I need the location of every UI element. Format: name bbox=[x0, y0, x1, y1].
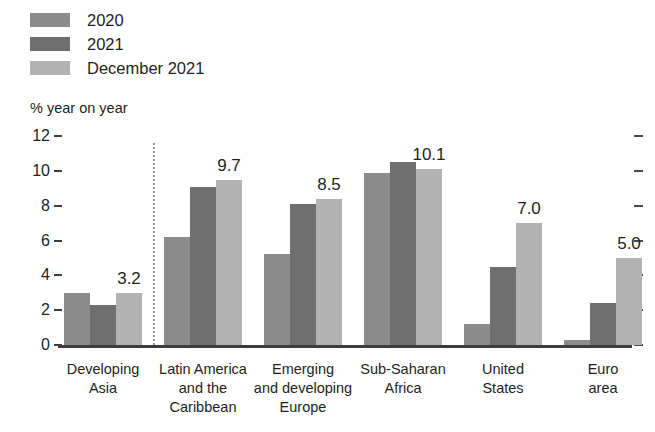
bar bbox=[264, 254, 290, 345]
bar bbox=[390, 162, 416, 345]
bar bbox=[216, 180, 242, 345]
bar-value-label: 7.0 bbox=[517, 200, 541, 217]
bar bbox=[316, 199, 342, 345]
x-axis-category-label-line: States bbox=[482, 379, 524, 398]
x-axis-category-label-line: Latin America bbox=[159, 360, 247, 379]
bar bbox=[416, 169, 442, 345]
bar bbox=[290, 204, 316, 345]
bar bbox=[516, 223, 542, 345]
bar-value-label: 9.7 bbox=[217, 157, 241, 174]
bar bbox=[116, 293, 142, 345]
bar-value-label: 10.1 bbox=[412, 146, 445, 163]
bar-chart-plot: 024681012 3.29.78.510.17.05.0 Developing… bbox=[0, 0, 655, 432]
x-axis-category-label-line: Asia bbox=[67, 379, 140, 398]
x-axis-category-label: UnitedStates bbox=[482, 360, 524, 398]
x-axis-category-label: Latin Americaand theCaribbean bbox=[159, 360, 247, 417]
x-axis-category-label-line: Sub-Saharan bbox=[360, 360, 445, 379]
x-axis-category-label-line: United bbox=[482, 360, 524, 379]
bars-layer bbox=[0, 0, 655, 345]
x-axis-category-label-line: Emerging bbox=[254, 360, 352, 379]
x-axis-baseline bbox=[58, 345, 632, 348]
bar bbox=[64, 293, 90, 345]
bar bbox=[590, 303, 616, 345]
bar bbox=[616, 258, 642, 345]
x-axis-category-label: DevelopingAsia bbox=[67, 360, 140, 398]
x-axis-category-label-line: and developing bbox=[254, 379, 352, 398]
x-axis-category-label-line: Europe bbox=[254, 398, 352, 417]
bar-value-label: 3.2 bbox=[117, 270, 141, 287]
x-axis-category-label-line: Developing bbox=[67, 360, 140, 379]
x-axis-category-label-line: Caribbean bbox=[159, 398, 247, 417]
bar-value-label: 5.0 bbox=[617, 235, 641, 252]
x-axis-category-label-line: and the bbox=[159, 379, 247, 398]
bar bbox=[190, 187, 216, 345]
bar bbox=[164, 237, 190, 345]
x-axis-category-label: Emergingand developingEurope bbox=[254, 360, 352, 417]
bar bbox=[364, 173, 390, 345]
x-axis-category-label: Euro area bbox=[577, 360, 629, 398]
x-axis-category-label-line: Africa bbox=[360, 379, 445, 398]
bar-value-label: 8.5 bbox=[317, 176, 341, 193]
x-axis-category-label-line: Euro area bbox=[577, 360, 629, 398]
bar bbox=[490, 267, 516, 345]
bar bbox=[90, 305, 116, 345]
x-axis-category-label: Sub-SaharanAfrica bbox=[360, 360, 445, 398]
bar bbox=[464, 324, 490, 345]
